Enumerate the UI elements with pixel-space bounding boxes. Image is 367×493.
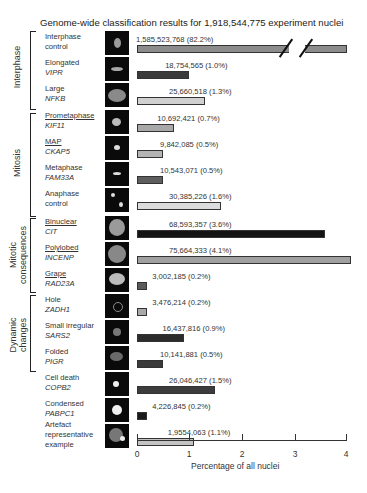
row-label: GrapeRAD23A <box>45 269 75 289</box>
nucleus-thumbnail <box>105 31 129 55</box>
x-tick-4 <box>346 434 347 440</box>
row-label-name: Condensed <box>45 399 84 409</box>
row-label: Artefactrepresentativeexample <box>45 420 93 450</box>
x-axis-label: Percentage of all nuclei <box>191 461 279 471</box>
bar <box>137 71 189 79</box>
chart-row: Cell deathCOPB226,046,427 (1.5%) <box>0 372 367 397</box>
row-label-gene: INCENP <box>45 253 78 263</box>
nucleus-image <box>109 219 125 236</box>
row-label-gene: CKAP5 <box>45 147 70 157</box>
row-label-name: Grape <box>45 269 75 279</box>
chart-title: Genome-wide classification results for 1… <box>40 17 343 28</box>
row-label-gene: representative <box>45 430 93 440</box>
row-label-gene: control <box>45 42 81 52</box>
nucleus-thumbnail <box>105 294 129 318</box>
row-label: LargeNFKB <box>45 84 65 104</box>
chart-row: PrometaphaseKIF1110,692,421 (0.7%) <box>0 110 367 135</box>
row-label-name: Cell death <box>45 373 79 383</box>
row-label: CondensedPABPC1 <box>45 399 84 419</box>
nucleus-image <box>110 352 123 361</box>
row-label-gene: ZADH1 <box>45 305 70 315</box>
row-label: MetaphaseFAM33A <box>45 163 83 183</box>
row-label-extra: example <box>45 440 93 450</box>
nucleus-image <box>111 67 123 71</box>
nucleus-image <box>112 118 121 126</box>
bar-value-label: 4,226,845 (0.2%) <box>152 402 210 411</box>
bar <box>137 150 163 158</box>
x-tick-1 <box>189 434 190 440</box>
row-label-name: Binuclear <box>45 217 77 227</box>
bar <box>137 202 221 210</box>
bar-value-label: 68,593,357 (3.6%) <box>169 220 231 229</box>
row-label-gene: CIT <box>45 227 77 237</box>
chart-row: Interphasecontrol1,585,523,768 (82.2%) <box>0 31 367 56</box>
row-label-gene: RAD23A <box>45 279 75 289</box>
nucleus-thumbnail <box>105 57 129 81</box>
row-label-name: Folded <box>45 347 68 357</box>
row-label: ElongatedVIPR <box>45 58 79 78</box>
bar-value-label: 16,437,816 (0.9%) <box>163 324 225 333</box>
x-tick-label: 1 <box>187 449 192 459</box>
bar <box>137 334 184 342</box>
row-label-gene: NFKB <box>45 94 65 104</box>
row-label-name: Hole <box>45 295 70 305</box>
bar <box>137 308 147 316</box>
chart-row: Anaphasecontrol30,385,226 (1.6%) <box>0 188 367 213</box>
bar <box>137 386 215 394</box>
bar-value-label: 10,692,421 (0.7%) <box>157 114 219 123</box>
chart-row: LargeNFKB25,660,518 (1.3%) <box>0 83 367 108</box>
bar-value-label: 3,002,185 (0.2%) <box>152 272 210 281</box>
row-label-name: Elongated <box>45 58 79 68</box>
bar <box>137 124 174 132</box>
nucleus-thumbnail <box>105 242 129 266</box>
row-label-gene: SARS2 <box>45 331 94 341</box>
nucleus-thumbnail <box>105 110 129 134</box>
bar <box>137 45 347 53</box>
bar-value-label: 18,754,565 (1.0%) <box>165 61 227 70</box>
row-label-name: Small irregular <box>45 321 94 331</box>
chart-row: MAPCKAP59,842,085 (0.5%) <box>0 136 367 161</box>
chart-row: BinuclearCIT68,593,357 (3.6%) <box>0 216 367 241</box>
bar <box>137 256 351 264</box>
row-label: Interphasecontrol <box>45 32 81 52</box>
nucleus-image <box>114 38 121 48</box>
chart-row: MetaphaseFAM33A10,543,071 (0.5%) <box>0 162 367 187</box>
x-tick-label: 2 <box>240 449 245 459</box>
x-tick-3 <box>295 434 296 440</box>
row-label: BinuclearCIT <box>45 217 77 237</box>
nucleus-image <box>113 172 121 175</box>
row-label-gene: KIF11 <box>45 121 94 131</box>
row-label: Anaphasecontrol <box>45 189 79 209</box>
bar-value-label: 30,385,226 (1.6%) <box>169 192 231 201</box>
bar <box>137 97 205 105</box>
nucleus-image <box>109 273 125 285</box>
nucleus-thumbnail <box>105 83 129 107</box>
row-label-name: Interphase <box>45 32 81 42</box>
nucleus-image <box>111 193 115 197</box>
bar-value-label: 10,543,071 (0.5%) <box>160 166 222 175</box>
nucleus-thumbnail <box>105 398 129 422</box>
nucleus-image <box>113 381 119 387</box>
bar <box>137 176 163 184</box>
bar-value-label: 10,141,881 (0.5%) <box>160 350 222 359</box>
bar-value-label: 26,046,427 (1.5%) <box>169 376 231 385</box>
chart-row: HoleZADH13,476,214 (0.2%) <box>0 294 367 319</box>
bar-value-label: 75,664,333 (4.1%) <box>169 246 231 255</box>
x-tick-0 <box>137 434 138 440</box>
row-label-name: MAP <box>45 137 70 147</box>
row-label-gene: FAM33A <box>45 173 83 183</box>
chart-row: PolylobedINCENP75,664,333 (4.1%) <box>0 242 367 267</box>
bar-value-label: 1,585,523,768 (82.2%) <box>136 35 213 44</box>
nucleus-image <box>108 245 126 263</box>
row-label-name: Artefact <box>45 420 93 430</box>
nucleus-image <box>119 202 123 207</box>
row-label: Small irregularSARS2 <box>45 321 94 341</box>
nucleus-thumbnail <box>105 216 129 240</box>
bar-value-label: 25,660,518 (1.3%) <box>169 87 231 96</box>
nucleus-thumbnail <box>105 372 129 396</box>
row-label-name: Polylobed <box>45 243 78 253</box>
nucleus-thumbnail <box>105 162 129 186</box>
bar <box>137 412 147 420</box>
row-label-name: Anaphase <box>45 189 79 199</box>
row-label: HoleZADH1 <box>45 295 70 315</box>
